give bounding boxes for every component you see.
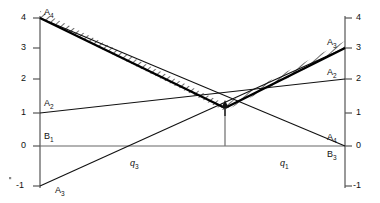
y-tick-left-1: 1 bbox=[21, 108, 26, 117]
y-tick-right-4: 4 bbox=[356, 13, 361, 22]
minimum-arrow-icon bbox=[221, 100, 228, 116]
y-tick-left-2: 2 bbox=[21, 74, 26, 83]
label-q3: q3 bbox=[130, 159, 139, 170]
label-a4-top-left: A4 bbox=[44, 8, 54, 19]
y-tick-right-0: 0 bbox=[356, 141, 361, 150]
right-axis bbox=[345, 16, 352, 188]
y-tick-left-0: 0 bbox=[21, 141, 26, 150]
label-q1: q1 bbox=[280, 159, 289, 170]
label-a3-bottom-left: A3 bbox=[55, 186, 65, 197]
y-tick-left-3: 3 bbox=[21, 43, 26, 52]
label-b3-right: B3 bbox=[327, 150, 337, 161]
label-b1-left: B1 bbox=[44, 132, 54, 143]
line-a4 bbox=[40, 18, 345, 146]
label-a2-left: A2 bbox=[44, 99, 54, 110]
line-a2 bbox=[40, 79, 345, 113]
label-a3-right: A3 bbox=[327, 38, 337, 49]
y-tick-left-neg1: -1 bbox=[16, 181, 24, 190]
label-a4-right: A4 bbox=[327, 133, 337, 144]
figure-canvas: 4 3 2 1 0 -1 4 3 2 1 0 -1 A4 A2 B1 A3 A3… bbox=[0, 0, 380, 203]
register-mark bbox=[9, 177, 11, 179]
y-tick-right-2: 2 bbox=[356, 74, 361, 83]
line-a3 bbox=[40, 48, 345, 186]
line-diagram-plot bbox=[0, 0, 380, 203]
y-tick-right-3: 3 bbox=[356, 43, 361, 52]
left-axis bbox=[33, 16, 40, 188]
y-tick-left-4: 4 bbox=[21, 13, 26, 22]
label-a2-right: A2 bbox=[327, 68, 337, 79]
y-tick-right-1: 1 bbox=[356, 108, 361, 117]
y-tick-right-neg1: -1 bbox=[353, 181, 361, 190]
